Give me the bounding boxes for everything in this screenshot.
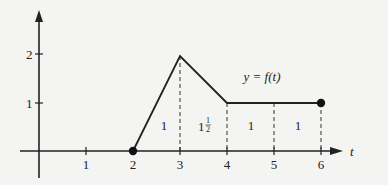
end-point-dot	[317, 99, 325, 107]
x-tick-label-3: 3	[177, 157, 184, 172]
x-tick-label-6: 6	[318, 157, 325, 172]
function-graph: t 1 2 1 2 3 4 5 6 y = f(t) 1 1 1 2 1	[0, 0, 388, 185]
svg-text:1: 1	[198, 119, 205, 134]
area-label-2-3: 1	[161, 118, 168, 133]
x-tick-label-1: 1	[83, 157, 90, 172]
y-tick-label-2: 2	[26, 47, 33, 62]
function-label: y = f(t)	[242, 69, 281, 84]
function-curve	[133, 56, 321, 151]
y-tick-label-1: 1	[26, 96, 33, 111]
area-label-5-6: 1	[295, 118, 302, 133]
area-label-3-4: 1 1 2	[198, 116, 211, 134]
start-point-dot	[129, 147, 137, 155]
x-tick-label-4: 4	[224, 157, 231, 172]
x-tick-label-2: 2	[130, 157, 137, 172]
x-axis-label: t	[350, 144, 354, 159]
svg-text:2: 2	[206, 125, 210, 134]
y-axis-arrow-icon	[35, 10, 43, 22]
x-axis-arrow-icon	[330, 147, 343, 155]
x-tick-label-5: 5	[271, 157, 278, 172]
svg-text:1: 1	[206, 116, 210, 125]
area-label-4-5: 1	[248, 118, 255, 133]
